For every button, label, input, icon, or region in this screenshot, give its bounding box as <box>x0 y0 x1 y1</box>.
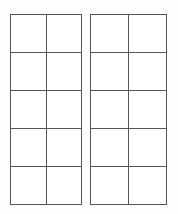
table-cell[interactable] <box>47 15 83 53</box>
table-cell[interactable] <box>91 15 129 53</box>
table-cell[interactable] <box>129 91 167 129</box>
table-cell[interactable] <box>91 129 129 167</box>
table-cell[interactable] <box>11 91 47 129</box>
table-cell[interactable] <box>91 53 129 91</box>
table-cell[interactable] <box>47 129 83 167</box>
table-cell[interactable] <box>11 167 47 205</box>
table-cell[interactable] <box>129 129 167 167</box>
table-cell[interactable] <box>129 167 167 205</box>
table-cell[interactable] <box>47 53 83 91</box>
table-cell[interactable] <box>11 129 47 167</box>
table-cell[interactable] <box>129 15 167 53</box>
table-cell[interactable] <box>129 53 167 91</box>
page-canvas <box>0 0 178 214</box>
table-cell[interactable] <box>91 91 129 129</box>
right-grid <box>90 14 167 205</box>
table-cell[interactable] <box>47 167 83 205</box>
table-cell[interactable] <box>47 91 83 129</box>
table-cell[interactable] <box>11 15 47 53</box>
left-grid <box>10 14 82 205</box>
table-cell[interactable] <box>11 53 47 91</box>
table-cell[interactable] <box>91 167 129 205</box>
